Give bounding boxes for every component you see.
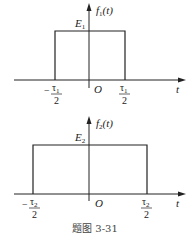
origin-label-f1: O (94, 83, 102, 95)
svg-text:2: 2 (122, 95, 127, 106)
left-tick-label-f2: − τ2 2 (22, 196, 40, 220)
right-tick-label-f1: τ1 2 (119, 82, 130, 106)
svg-text:τ1: τ1 (52, 82, 60, 95)
y-axis-arrow (87, 3, 92, 11)
svg-text:−: − (22, 199, 28, 210)
ylabel-f2: f2(t) (96, 117, 113, 131)
origin-label-f2: O (95, 197, 103, 209)
plot-f2: f2(t) E2 O t − τ2 2 τ2 2 (14, 116, 186, 220)
y-axis-arrow (87, 116, 92, 124)
svg-text:−: − (44, 85, 50, 96)
pulse-f1 (55, 31, 125, 80)
right-tick-label-f2: τ2 2 (141, 196, 152, 220)
pulse-f2 (33, 145, 147, 194)
svg-text:τ2: τ2 (30, 196, 38, 209)
svg-text:τ2: τ2 (142, 196, 150, 209)
figure-caption: 题图 3-31 (72, 223, 118, 234)
svg-text:2: 2 (144, 209, 149, 220)
svg-text:2: 2 (32, 209, 37, 220)
x-axis-arrow (178, 192, 186, 197)
left-tick-label-f1: − τ1 2 (44, 82, 62, 106)
svg-text:τ1: τ1 (120, 82, 128, 95)
plot-f1: f1(t) E1 O t − τ1 2 τ1 2 (14, 3, 186, 106)
x-axis-arrow (178, 78, 186, 83)
diagram-canvas: f1(t) E1 O t − τ1 2 τ1 2 f2(t) E2 (0, 0, 191, 243)
ylabel-f1: f1(t) (96, 4, 113, 18)
amplitude-label-f1: E1 (74, 17, 86, 31)
svg-text:2: 2 (54, 95, 59, 106)
xlabel-f2: t (176, 197, 180, 209)
amplitude-label-f2: E2 (74, 131, 86, 145)
xlabel-f1: t (176, 83, 180, 95)
